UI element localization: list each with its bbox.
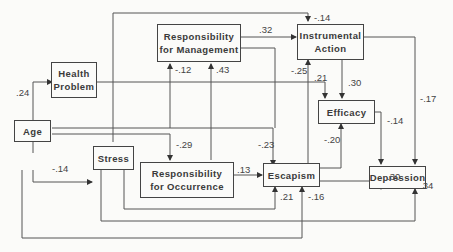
coef-age-escapism: -.23: [258, 139, 274, 150]
coef-escapism-depression: .30: [387, 171, 400, 182]
coef-escapism-efficacy: -.20: [324, 134, 340, 145]
coef-resp-mgmt-instrumental: .32: [259, 24, 272, 35]
node-label: Stress: [98, 152, 129, 165]
coef-age-escapism-bottom: -.16: [308, 191, 324, 202]
node-escapism: Escapism: [263, 163, 320, 187]
node-efficacy: Efficacy: [318, 100, 375, 124]
node-label: Responsibility: [152, 167, 223, 180]
coef-stress-escapism: .21: [280, 191, 293, 202]
coef-efficacy-depression: -.14: [387, 115, 403, 126]
coef-age-resp-mgmt: -.12: [175, 64, 191, 75]
node-label: Health: [58, 67, 89, 80]
coef-instrumental-depression: -.17: [420, 93, 436, 104]
node-label: Problem: [54, 80, 95, 93]
node-label: for Management: [160, 43, 239, 56]
coef-instrumental-efficacy: .30: [348, 77, 361, 88]
node-label: Responsibility: [164, 30, 235, 43]
node-label: Escapism: [268, 169, 316, 182]
coef-health-efficacy: .21: [314, 72, 327, 83]
coef-age-resp-occ: -.29: [176, 139, 192, 150]
coef-age-health: .24: [16, 87, 29, 98]
coef-resp-occ-mgmt: .43: [216, 64, 229, 75]
node-label: Efficacy: [327, 106, 367, 119]
node-age: Age: [14, 120, 51, 142]
coef-age-stress: -.14: [52, 163, 68, 174]
coef-escapism-instrumental: -.25: [291, 65, 307, 76]
node-health-problem: Health Problem: [51, 62, 97, 98]
node-responsibility-management: Responsibility for Management: [157, 24, 241, 62]
node-label: for Occurrence: [150, 180, 224, 193]
coef-age-instrumental: -.14: [314, 12, 330, 23]
coef-resp-occ-escapism: .13: [237, 164, 250, 175]
node-stress: Stress: [93, 146, 134, 170]
node-label: Instrumental: [300, 29, 362, 42]
node-responsibility-occurrence: Responsibility for Occurrence: [140, 162, 234, 198]
node-label: Action: [315, 42, 347, 55]
coef-stress-depression: .34: [420, 180, 433, 191]
node-instrumental-action: Instrumental Action: [297, 24, 364, 60]
node-label: Age: [23, 125, 42, 138]
